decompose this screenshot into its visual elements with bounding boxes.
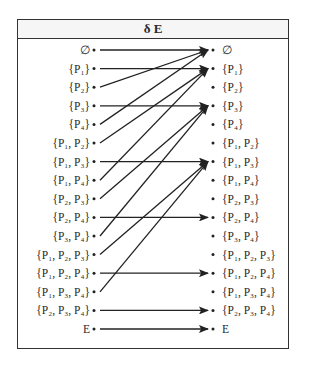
domain-element: {P₂, P₃} bbox=[52, 192, 90, 206]
mapping-arrow bbox=[100, 162, 208, 292]
codomain-element: {P₁, P₂} bbox=[222, 136, 260, 150]
node-dot bbox=[93, 309, 96, 312]
node-dot bbox=[212, 309, 215, 312]
node-dot bbox=[93, 142, 96, 145]
node-dot bbox=[212, 272, 215, 275]
codomain-element: ∅ bbox=[222, 43, 232, 57]
node-dot bbox=[212, 49, 215, 52]
node-dot bbox=[212, 160, 215, 163]
node-dot bbox=[93, 179, 96, 182]
codomain-element: {P₁} bbox=[222, 62, 243, 76]
node-dot bbox=[93, 67, 96, 70]
codomain-element: {P₁, P₄} bbox=[222, 173, 260, 187]
node-dot bbox=[93, 328, 96, 331]
codomain-element: {P₁, P₂, P₄} bbox=[222, 266, 276, 280]
node-dot bbox=[212, 142, 215, 145]
domain-element: {P₂, P₄} bbox=[52, 210, 90, 224]
mapping-arrow bbox=[100, 162, 208, 255]
node-dot bbox=[93, 290, 96, 293]
node-dot bbox=[93, 216, 96, 219]
node-dot bbox=[93, 272, 96, 275]
codomain-element: {P₁, P₃} bbox=[222, 155, 260, 169]
domain-element: E bbox=[83, 322, 90, 336]
node-dot bbox=[212, 216, 215, 219]
domain-element: {P₂} bbox=[69, 80, 90, 94]
domain-element: {P₁, P₃, P₄} bbox=[36, 285, 90, 299]
node-dot bbox=[93, 253, 96, 256]
domain-element: {P₁, P₂, P₃} bbox=[36, 248, 90, 262]
node-dot bbox=[212, 197, 215, 200]
mapping-arrow bbox=[100, 106, 208, 199]
codomain-element: {P₁, P₂, P₃} bbox=[222, 248, 276, 262]
node-dot bbox=[93, 160, 96, 163]
node-dot bbox=[212, 235, 215, 238]
codomain-element: {P₃} bbox=[222, 99, 243, 113]
node-dot bbox=[212, 104, 215, 107]
node-dot bbox=[212, 86, 215, 89]
node-dot bbox=[212, 123, 215, 126]
mapping-arrow bbox=[100, 50, 208, 124]
domain-element: {P₁, P₄} bbox=[52, 173, 90, 187]
node-dot bbox=[93, 123, 96, 126]
domain-element: {P₁, P₂} bbox=[52, 136, 90, 150]
node-dot bbox=[212, 328, 215, 331]
codomain-element: {P₁, P₃, P₄} bbox=[222, 285, 276, 299]
node-dot bbox=[93, 49, 96, 52]
domain-element: ∅ bbox=[80, 43, 90, 57]
domain-element: {P₂, P₃, P₄} bbox=[36, 303, 90, 317]
node-dot bbox=[93, 86, 96, 89]
codomain-element: {P₄} bbox=[222, 117, 243, 131]
codomain-element: {P₂, P₃, P₄} bbox=[222, 303, 276, 317]
codomain-element: E bbox=[222, 322, 229, 336]
domain-element: {P₃} bbox=[69, 99, 90, 113]
node-dot bbox=[212, 67, 215, 70]
node-dot bbox=[212, 290, 215, 293]
node-dot bbox=[93, 104, 96, 107]
node-dot bbox=[212, 179, 215, 182]
node-dot bbox=[212, 253, 215, 256]
codomain-element: {P₂} bbox=[222, 80, 243, 94]
codomain-element: {P₂, P₃} bbox=[222, 192, 260, 206]
domain-element: {P₁} bbox=[69, 62, 90, 76]
node-dot bbox=[93, 197, 96, 200]
node-dot bbox=[93, 235, 96, 238]
domain-element: {P₄} bbox=[69, 117, 90, 131]
domain-element: {P₁, P₂, P₄} bbox=[36, 266, 90, 280]
domain-element: {P₁, P₃} bbox=[52, 155, 90, 169]
domain-element: {P₃, P₄} bbox=[52, 229, 90, 243]
codomain-element: {P₂, P₄} bbox=[222, 210, 260, 224]
codomain-element: {P₃, P₄} bbox=[222, 229, 260, 243]
